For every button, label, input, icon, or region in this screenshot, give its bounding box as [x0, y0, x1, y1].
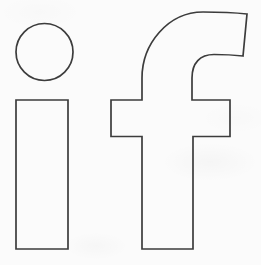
- f-letter-outline: [111, 12, 247, 249]
- i-stem-rectangle: [16, 100, 68, 249]
- letters-outline-drawing: [0, 0, 261, 265]
- i-dot-circle: [16, 24, 73, 81]
- artwork-canvas: [0, 0, 261, 265]
